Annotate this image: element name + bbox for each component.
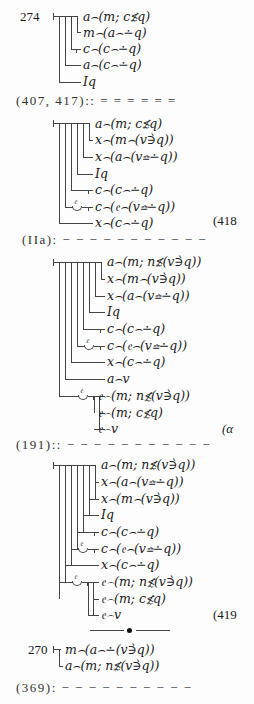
- formula-row: x⌢(a⌢(v≏∸q)): [107, 288, 190, 304]
- branch-stroke: [59, 82, 81, 83]
- formula-row: m⌢(a⌢∸(v∋̀q)): [65, 642, 155, 658]
- german-letter-icon: 𝔢: [80, 540, 83, 548]
- concavity-icon: [78, 548, 88, 553]
- condition-line: [89, 123, 90, 140]
- branch-stroke: [65, 565, 99, 566]
- german-letter-icon: 𝔢: [74, 198, 77, 206]
- derivation-separator: (369): − − − − − − − − − −: [16, 680, 193, 696]
- branch-stroke: [101, 279, 105, 280]
- equation-number: (419: [213, 607, 237, 623]
- formula-row: Iq: [101, 507, 114, 523]
- divider-dot-icon: [127, 628, 132, 633]
- branch-stroke: [82, 582, 99, 583]
- condition-line: [88, 582, 89, 615]
- condition-line: [59, 649, 60, 666]
- formula-row: 𝔢⌢(m; n≴(v∋̀q)): [101, 574, 193, 590]
- condition-line: [83, 123, 84, 157]
- branch-stroke: [71, 190, 93, 191]
- negation-stroke: [88, 190, 89, 194]
- german-letter-icon: 𝔢: [80, 387, 83, 395]
- branch-stroke: [89, 140, 93, 141]
- concavity-icon: [78, 395, 88, 400]
- branch-stroke: [59, 666, 63, 667]
- formula-row: a⌢v: [107, 371, 130, 387]
- formula-row: Iq: [83, 74, 96, 90]
- condition-line: [77, 123, 78, 174]
- branch-stroke: [83, 329, 105, 330]
- formula-row: c⌢(𝔢⌢(v≏∸q)): [107, 338, 187, 354]
- branch-stroke: [95, 296, 105, 297]
- formula-row: x⌢(c⌢∸q): [107, 354, 165, 370]
- derivation-separator: (191):: − − − − − − − − − − −: [16, 437, 211, 453]
- divider-line-right: [136, 630, 170, 631]
- branch-stroke: [83, 515, 99, 516]
- condition-line: [89, 262, 90, 312]
- formula-row: Iq: [107, 304, 120, 320]
- negation-stroke: [100, 329, 101, 333]
- negation-stroke: [94, 549, 95, 553]
- branch-stroke: [77, 174, 93, 175]
- branch-stroke: [71, 362, 105, 363]
- negation-stroke: [88, 207, 89, 211]
- branch-stroke: [89, 312, 105, 313]
- branch-stroke: [83, 157, 93, 158]
- branch-stroke: [65, 379, 105, 380]
- formula-row: a⌢(m; c≴q): [83, 9, 150, 25]
- branch-stroke: [59, 223, 93, 224]
- condition-line: [65, 16, 66, 66]
- formula-row: c⌢(𝔢⌢(v≏∸q)): [101, 541, 181, 557]
- derivation-separator: (IIa): − − − − − − − − − − −: [22, 232, 207, 248]
- formula-row: x⌢(a⌢(v≏∸q)): [101, 474, 184, 490]
- branch-stroke: [59, 396, 79, 397]
- formula-row: c⌢(𝔢⌢(v≏∸q)): [95, 199, 175, 215]
- formula-row: x⌢(m⌢(v∋̀q)): [101, 491, 180, 507]
- branch-stroke: [77, 532, 99, 533]
- formula-row: x⌢(a⌢(v≏∸q)): [95, 149, 178, 165]
- formula-row: 𝔢⌢(m; c≴q): [101, 591, 166, 607]
- condition-line: [71, 262, 72, 362]
- german-letter-icon: 𝔢: [86, 337, 89, 345]
- formula-row: Iq: [95, 166, 108, 182]
- formula-row: 𝔢⌢(m; n≴(v∋̀q)): [98, 388, 190, 404]
- condition-line: [59, 465, 60, 599]
- negation-stroke: [76, 49, 77, 53]
- branch-stroke: [65, 65, 81, 66]
- branch-stroke: [95, 482, 99, 483]
- formula-row: 𝔢⌢(m; c≴q): [98, 405, 163, 421]
- negation-stroke: [94, 532, 95, 536]
- condition-line: [59, 16, 60, 82]
- formula-row: a⌢(m; n≴(v∋̀q)): [101, 457, 195, 473]
- condition-line: [89, 465, 90, 515]
- condition-line: [71, 123, 72, 190]
- formula-row: a⌢(c⌢∸q): [83, 57, 142, 73]
- german-letter-icon: 𝔢: [74, 573, 77, 581]
- branch-stroke: [89, 499, 99, 500]
- condition-line: [83, 465, 84, 532]
- formula-row: c⌢(c⌢∸q): [101, 524, 159, 540]
- formula-row: c⌢(c⌢∸q): [95, 182, 153, 198]
- proposition-number: 270: [28, 642, 48, 658]
- branch-stroke: [93, 599, 99, 600]
- proposition-number: 274: [20, 9, 40, 25]
- formula-row: 𝔢⌢v: [98, 421, 118, 437]
- condition-line: [101, 262, 102, 279]
- condition-line: [77, 262, 78, 346]
- branch-stroke: [88, 615, 99, 616]
- derivation-separator: (407, 417):: = = = = = =: [16, 93, 177, 109]
- formula-row: c⌢(c⌢∸q): [107, 321, 165, 337]
- negation-stroke: [100, 346, 101, 350]
- condition-line: [83, 262, 84, 329]
- concavity-icon: [72, 206, 82, 211]
- branch-stroke: [59, 582, 73, 583]
- equation-number: (418: [213, 213, 237, 229]
- divider-line-left: [90, 630, 124, 631]
- formula-row: x⌢(c⌢∸q): [101, 557, 159, 573]
- concavity-icon: [72, 581, 82, 586]
- branch-stroke: [77, 32, 81, 33]
- condition-line: [77, 465, 78, 549]
- formula-row: 𝔢⌢v: [101, 607, 121, 623]
- formula-row: a⌢(m; n≴(v∋̀q)): [65, 658, 159, 674]
- formula-row: x⌢(c⌢∸q): [95, 215, 153, 231]
- formula-row: c⌢(c⌢∸q): [83, 41, 141, 57]
- formula-row: a⌢(m; n≴(v∋̀q)): [107, 254, 201, 270]
